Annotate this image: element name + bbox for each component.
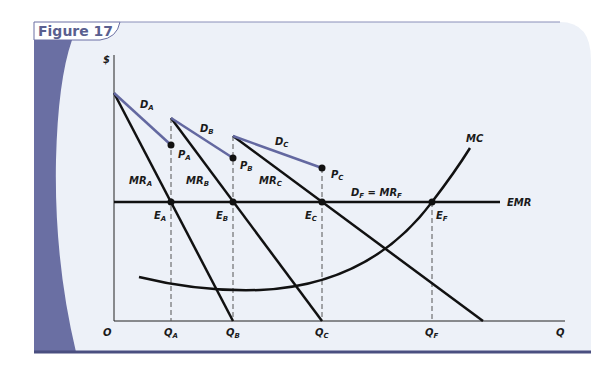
figure-title: Figure 17 <box>38 23 113 39</box>
figure-17-diagram: Figure 17 $ Q O DA DB DC PA PB PC MRA MR <box>0 0 616 375</box>
y-axis-label: $ <box>103 54 110 65</box>
label-mc: MC <box>466 133 484 144</box>
panel-background <box>34 22 591 352</box>
origin-label: O <box>103 327 112 338</box>
label-emr: EMR <box>507 197 531 208</box>
x-axis-label: Q <box>556 327 565 338</box>
